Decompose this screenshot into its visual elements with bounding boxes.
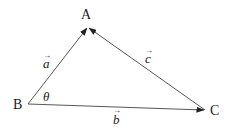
vector-a-arrow-icon: → bbox=[43, 51, 51, 60]
point-label-c: C bbox=[210, 103, 219, 118]
vector-b-arrow-icon: → bbox=[113, 106, 121, 115]
point-label-a: A bbox=[81, 7, 92, 22]
vector-triangle-diagram: A B C a → c → b → θ bbox=[0, 0, 233, 130]
angle-label-theta: θ bbox=[43, 89, 50, 104]
point-label-b: B bbox=[13, 97, 22, 112]
vector-c-arrow-icon: → bbox=[145, 46, 153, 55]
vector-a-line bbox=[28, 28, 87, 104]
vector-c-line bbox=[89, 28, 205, 110]
